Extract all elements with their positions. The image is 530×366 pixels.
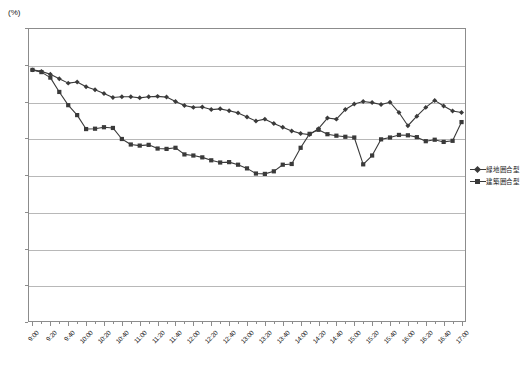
data-point-square: [156, 146, 160, 150]
data-point-diamond: [84, 84, 89, 89]
data-point-square: [39, 70, 43, 74]
data-point-diamond: [352, 102, 357, 107]
data-point-square: [361, 162, 365, 166]
data-point-diamond: [361, 99, 366, 104]
data-point-square: [424, 139, 428, 143]
series-line: [32, 70, 461, 174]
series-2: [30, 68, 463, 176]
data-point-square: [182, 152, 186, 156]
data-point-square: [218, 160, 222, 164]
data-point-square: [415, 135, 419, 139]
data-point-square: [147, 143, 151, 147]
data-point-diamond: [262, 117, 267, 122]
data-point-diamond: [236, 110, 241, 115]
data-point-diamond: [110, 95, 115, 100]
data-point-square: [164, 147, 168, 151]
legend-label-series-2: 建築囲合型: [486, 177, 520, 187]
data-point-square: [406, 133, 410, 137]
data-point-diamond: [191, 105, 196, 110]
series-layer: [0, 0, 530, 366]
data-point-square: [334, 134, 338, 138]
data-point-square: [191, 153, 195, 157]
data-point-diamond: [128, 94, 133, 99]
data-point-diamond: [66, 81, 71, 86]
legend-item-series-1[interactable]: 緑地囲合型: [470, 164, 528, 175]
data-point-square: [343, 135, 347, 139]
data-point-diamond: [164, 95, 169, 100]
data-point-diamond: [379, 102, 384, 107]
data-point-square: [57, 90, 61, 94]
data-point-diamond: [155, 94, 160, 99]
data-point-square: [236, 163, 240, 167]
data-point-square: [111, 126, 115, 130]
data-point-diamond: [370, 100, 375, 105]
data-point-square: [370, 153, 374, 157]
data-point-square: [84, 127, 88, 131]
data-point-diamond: [227, 108, 232, 113]
data-point-square: [30, 68, 34, 72]
data-point-square: [307, 132, 311, 136]
data-point-diamond: [182, 103, 187, 108]
data-point-diamond: [75, 80, 80, 85]
data-point-diamond: [102, 91, 107, 96]
data-point-square: [299, 146, 303, 150]
data-point-square: [325, 132, 329, 136]
data-point-diamond: [298, 131, 303, 136]
data-point-square: [102, 125, 106, 129]
data-point-square: [352, 135, 356, 139]
data-point-diamond: [253, 119, 258, 124]
data-point-diamond: [280, 125, 285, 130]
data-point-diamond: [209, 107, 214, 112]
data-point-diamond: [200, 105, 205, 110]
data-point-square: [263, 172, 267, 176]
data-point-square: [48, 76, 52, 80]
data-point-diamond: [173, 99, 178, 104]
data-point-diamond: [218, 106, 223, 111]
data-point-square: [245, 166, 249, 170]
data-point-square: [66, 103, 70, 107]
square-marker-icon: [470, 177, 486, 187]
data-point-square: [459, 120, 463, 124]
data-point-square: [442, 140, 446, 144]
data-point-square: [388, 135, 392, 139]
chart-figure: (%) 0.010.020.030.040.050.060.070.080.0 …: [0, 0, 530, 366]
data-point-square: [138, 144, 142, 148]
data-point-square: [227, 160, 231, 164]
data-point-square: [173, 146, 177, 150]
data-point-diamond: [441, 103, 446, 108]
legend-item-series-2[interactable]: 建築囲合型: [470, 176, 528, 187]
data-point-diamond: [245, 114, 250, 119]
data-point-diamond: [450, 109, 455, 114]
data-point-square: [272, 169, 276, 173]
data-point-square: [433, 138, 437, 142]
data-point-square: [120, 137, 124, 141]
data-point-square: [93, 127, 97, 131]
data-point-diamond: [271, 121, 276, 126]
data-point-diamond: [137, 95, 142, 100]
data-point-square: [379, 137, 383, 141]
data-point-square: [209, 158, 213, 162]
data-point-square: [254, 171, 258, 175]
data-point-diamond: [146, 94, 151, 99]
series-line: [32, 70, 461, 135]
data-point-diamond: [459, 110, 464, 115]
data-point-square: [450, 139, 454, 143]
diamond-marker-icon: [470, 165, 486, 175]
data-point-square: [129, 142, 133, 146]
data-point-square: [281, 163, 285, 167]
chart-legend: 緑地囲合型 建築囲合型: [470, 164, 528, 188]
data-point-square: [75, 113, 79, 117]
legend-label-series-1: 緑地囲合型: [486, 165, 520, 175]
data-point-square: [290, 162, 294, 166]
data-point-diamond: [57, 76, 62, 81]
data-point-diamond: [93, 87, 98, 92]
data-point-square: [200, 155, 204, 159]
data-point-square: [397, 133, 401, 137]
data-point-square: [316, 128, 320, 132]
data-point-diamond: [119, 94, 124, 99]
data-point-diamond: [289, 128, 294, 133]
